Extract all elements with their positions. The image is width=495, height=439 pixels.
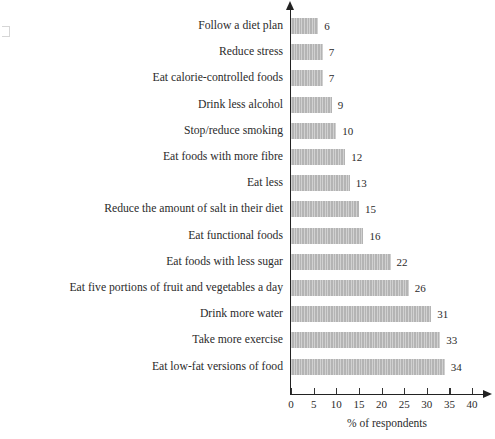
bar-value-label: 10 — [342, 123, 353, 140]
bar-value-label: 31 — [437, 306, 448, 323]
bar-row: Follow a diet plan6 — [0, 18, 495, 34]
bar-row: Eat low-fat versions of food34 — [0, 359, 495, 375]
category-label: Drink more water — [23, 305, 283, 322]
x-tick-mark — [291, 388, 292, 394]
category-label: Eat less — [23, 174, 283, 191]
bar — [291, 18, 318, 34]
category-label: Reduce stress — [23, 43, 283, 60]
bar-value-label: 33 — [446, 332, 457, 349]
bar — [291, 280, 409, 296]
bar-row: Drink more water31 — [0, 306, 495, 322]
x-tick-mark — [472, 388, 473, 394]
x-tick-label: 40 — [457, 398, 487, 411]
bar-row: Eat less13 — [0, 175, 495, 191]
bar — [291, 332, 440, 348]
x-tick-mark — [449, 388, 450, 394]
bar-value-label: 12 — [351, 149, 362, 166]
bar — [291, 254, 391, 270]
bar-row: Eat foods with less sugar22 — [0, 254, 495, 270]
bar — [291, 175, 350, 191]
bar — [291, 149, 345, 165]
category-label: Stop/reduce smoking — [23, 122, 283, 139]
category-label: Eat low-fat versions of food — [23, 358, 283, 375]
bar-row: Reduce stress7 — [0, 44, 495, 60]
bar-value-label: 26 — [415, 280, 426, 297]
bar-row: Take more exercise33 — [0, 332, 495, 348]
bar — [291, 359, 445, 375]
category-label: Eat foods with less sugar — [23, 253, 283, 270]
bar-row: Stop/reduce smoking10 — [0, 123, 495, 139]
category-label: Eat foods with more fibre — [23, 148, 283, 165]
bar-value-label: 6 — [324, 18, 330, 35]
category-label: Eat calorie-controlled foods — [23, 69, 283, 86]
bar-row: Eat five portions of fruit and vegetable… — [0, 280, 495, 296]
bar-value-label: 15 — [365, 201, 376, 218]
bar-value-label: 9 — [338, 97, 344, 114]
x-tick-mark — [382, 388, 383, 394]
bar-value-label: 7 — [329, 44, 335, 61]
bar-row: Eat calorie-controlled foods7 — [0, 70, 495, 86]
bar — [291, 70, 323, 86]
x-tick-mark — [314, 388, 315, 394]
x-tick-mark — [427, 388, 428, 394]
bar-value-label: 34 — [451, 359, 462, 376]
bar-value-label: 7 — [329, 70, 335, 87]
bar-row: Reduce the amount of salt in their diet1… — [0, 201, 495, 217]
x-axis-title: % of respondents — [290, 417, 484, 429]
bar — [291, 97, 332, 113]
category-label: Drink less alcohol — [23, 96, 283, 113]
category-label: Follow a diet plan — [23, 17, 283, 34]
bar — [291, 201, 359, 217]
x-tick-mark — [359, 388, 360, 394]
x-axis-arrow-icon — [483, 390, 492, 398]
bar — [291, 306, 431, 322]
bar-row: Eat functional foods16 — [0, 228, 495, 244]
bar — [291, 44, 323, 60]
category-label: Eat functional foods — [23, 227, 283, 244]
bar-row: Eat foods with more fibre12 — [0, 149, 495, 165]
bar — [291, 123, 336, 139]
horizontal-bar-chart: Follow a diet plan6Reduce stress7Eat cal… — [0, 0, 495, 439]
plot-area: Follow a diet plan6Reduce stress7Eat cal… — [0, 0, 495, 439]
category-label: Eat five portions of fruit and vegetable… — [23, 279, 283, 296]
bar-value-label: 13 — [356, 175, 367, 192]
category-label: Reduce the amount of salt in their diet — [23, 200, 283, 217]
bar — [291, 228, 363, 244]
bar-value-label: 16 — [369, 228, 380, 245]
x-axis-line — [290, 394, 484, 395]
bar-row: Drink less alcohol9 — [0, 97, 495, 113]
x-tick-mark — [336, 388, 337, 394]
bar-value-label: 22 — [397, 254, 408, 271]
x-tick-mark — [404, 388, 405, 394]
category-label: Take more exercise — [23, 331, 283, 348]
